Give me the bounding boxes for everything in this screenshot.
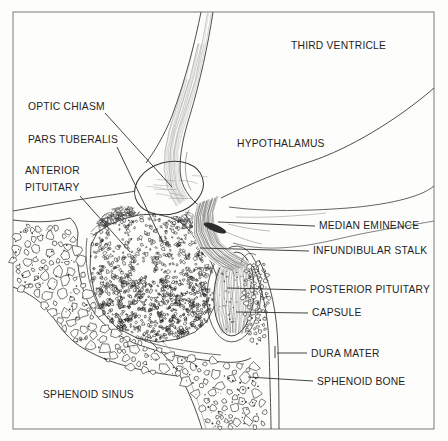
figure-canvas: THIRD VENTRICLE OPTIC CHIASM PARS TUBERA… — [0, 0, 448, 441]
label-capsule: CAPSULE — [312, 307, 361, 318]
label-dura-mater: DURA MATER — [311, 348, 380, 359]
label-optic-chiasm: OPTIC CHIASM — [28, 101, 105, 112]
label-anterior-pituitary-2: PITUITARY — [25, 182, 80, 193]
label-anterior-pituitary-1: ANTERIOR — [25, 165, 80, 176]
label-sphenoid-sinus: SPHENOID SINUS — [43, 389, 134, 400]
label-median-eminence: MEDIAN EMINENCE — [319, 220, 419, 231]
label-sphenoid-bone: SPHENOID BONE — [317, 376, 405, 387]
label-third-ventricle: THIRD VENTRICLE — [291, 40, 386, 51]
anatomy-illustration: THIRD VENTRICLE OPTIC CHIASM PARS TUBERA… — [0, 0, 448, 441]
label-pars-tuberalis: PARS TUBERALIS — [28, 134, 118, 145]
label-hypothalamus: HYPOTHALAMUS — [237, 138, 325, 149]
label-infundibular-stalk: INFUNDIBULAR STALK — [313, 245, 427, 256]
label-posterior-pituitary: POSTERIOR PITUITARY — [310, 284, 430, 295]
